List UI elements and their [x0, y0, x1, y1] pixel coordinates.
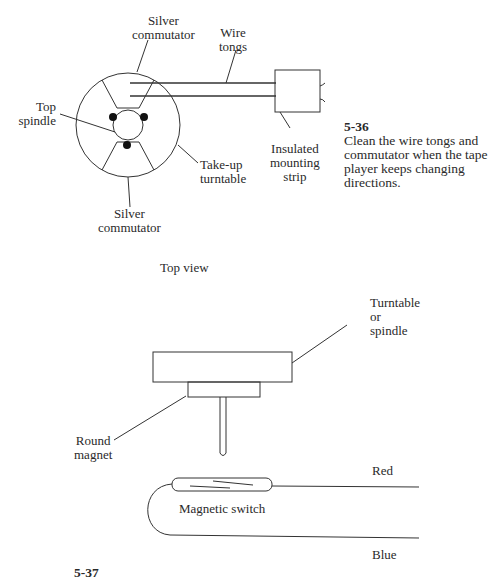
figure-number: 5-37	[74, 566, 99, 580]
top-spindle-circle	[113, 110, 143, 140]
label-top-spindle: Top spindle	[18, 100, 56, 128]
label-line: or	[370, 310, 420, 324]
label-line: Insulated	[270, 142, 320, 156]
round-magnet-block	[188, 382, 260, 397]
label-silver-commutator-top: Silver commutator	[132, 14, 195, 42]
label-line: strip	[270, 170, 320, 184]
label-insulated-mounting-strip: Insulated mounting strip	[270, 142, 320, 184]
label-line: Turntable	[370, 296, 420, 310]
label-line: Silver	[132, 14, 195, 28]
red-wire	[272, 486, 419, 487]
label-line: spindle	[370, 324, 420, 338]
label-blue-wire: Blue	[372, 548, 397, 562]
label-wire-tongs: Wire tongs	[219, 26, 247, 54]
label-round-magnet: Round magnet	[74, 434, 112, 462]
figure-number: 5-36	[344, 120, 494, 134]
turntable-block	[153, 352, 292, 382]
label-top-view: Top view	[160, 261, 209, 275]
label-line: Top	[18, 100, 56, 114]
figure-caption-5-36: 5-36 Clean the wire tongs and commutator…	[344, 120, 494, 190]
label-line: magnet	[74, 448, 112, 462]
label-magnetic-switch: Magnetic switch	[179, 502, 265, 516]
label-line: Silver	[98, 207, 161, 221]
label-take-up-turntable: Take-up turntable	[200, 158, 246, 186]
spindle-pin	[220, 397, 226, 456]
label-line: mounting	[270, 156, 320, 170]
label-line: tongs	[219, 40, 247, 54]
label-silver-commutator-bottom: Silver commutator	[98, 207, 161, 235]
label-line: Wire	[219, 26, 247, 40]
label-line: commutator	[132, 28, 195, 42]
insulated-mounting-strip	[275, 70, 320, 112]
label-line: Round	[74, 434, 112, 448]
magnetic-switch-body	[172, 478, 272, 491]
label-line: spindle	[18, 114, 56, 128]
label-line: Take-up	[200, 158, 246, 172]
figure-caption-5-37: 5-37	[74, 566, 99, 580]
label-line: turntable	[200, 172, 246, 186]
label-turntable-or-spindle: Turntable or spindle	[370, 296, 420, 338]
label-red-wire: Red	[372, 464, 393, 478]
label-line: commutator	[98, 221, 161, 235]
figure-caption-text: Clean the wire tongs and commutator when…	[344, 133, 488, 190]
